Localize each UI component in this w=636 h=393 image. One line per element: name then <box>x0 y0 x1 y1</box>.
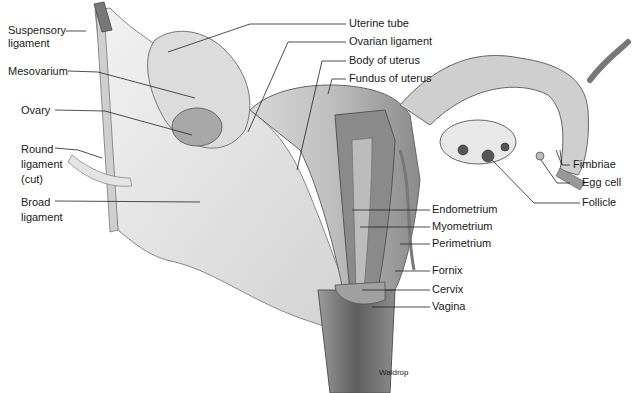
label-egg-cell: Egg cell <box>582 176 621 189</box>
label-broad-ligament: Broad ligament <box>21 195 63 225</box>
label-line: ligament <box>8 37 66 50</box>
right-ovary-shape <box>440 120 516 164</box>
label-round-ligament: Round ligament (cut) <box>21 142 63 187</box>
label-endometrium: Endometrium <box>432 203 497 216</box>
label-line: Broad <box>21 195 63 210</box>
label-vagina: Vagina <box>432 300 465 313</box>
label-fimbriae: Fimbriae <box>573 158 616 171</box>
label-line: Suspensory <box>8 24 66 37</box>
label-fundus-of-uterus: Fundus of uterus <box>349 72 432 85</box>
label-suspensory-ligament: Suspensory ligament <box>8 24 66 50</box>
egg-cell-shape <box>536 152 544 160</box>
vagina-shape <box>318 290 395 393</box>
label-line: ligament <box>21 210 63 225</box>
label-line: (cut) <box>21 172 63 187</box>
label-body-of-uterus: Body of uterus <box>349 54 420 67</box>
label-fornix: Fornix <box>432 264 463 277</box>
label-line: Ovary <box>21 104 50 117</box>
label-line: Round <box>21 142 63 157</box>
label-myometrium: Myometrium <box>432 220 493 233</box>
label-mesovarium: Mesovarium <box>8 65 68 78</box>
artist-credit: Waldrop <box>379 368 409 377</box>
anatomy-diagram: Suspensory ligament Mesovarium Ovary Rou… <box>0 0 636 393</box>
label-ovarian-ligament: Ovarian ligament <box>349 35 432 48</box>
left-ovary-shape <box>172 108 222 146</box>
label-perimetrium: Perimetrium <box>432 237 491 250</box>
follicle-shape <box>458 145 468 155</box>
label-cervix: Cervix <box>432 283 463 296</box>
uterus-illustration <box>0 0 636 393</box>
label-line: ligament <box>21 157 63 172</box>
label-line: Mesovarium <box>8 65 68 78</box>
label-follicle: Follicle <box>582 196 616 209</box>
label-uterine-tube: Uterine tube <box>349 17 409 30</box>
label-ovary: Ovary <box>21 104 50 117</box>
